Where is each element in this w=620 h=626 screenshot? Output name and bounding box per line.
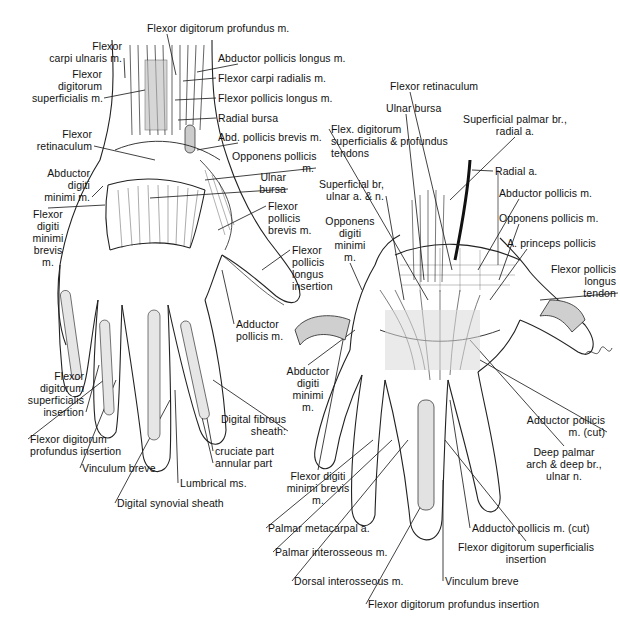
label-fds-insertion-r: Flexor digitorum superficialisinsertion [456, 541, 596, 565]
label-line: Flex. digitorum [331, 123, 431, 135]
label-line: Digital fibrous [220, 413, 286, 425]
label-line: digiti [322, 227, 378, 239]
label-line: Vinculum breve [82, 462, 156, 474]
label-line: digiti [18, 220, 78, 232]
label-fpl-tendon: Flexor pollicislongustendon [534, 263, 616, 299]
label-line: Opponens pollicis [232, 150, 314, 162]
leader-line [183, 78, 216, 81]
label-line: Vinculum breve [445, 575, 519, 587]
label-line: Abductor pollicis longus m. [218, 52, 346, 64]
leader-line [222, 270, 234, 324]
label-line: Flexor [32, 68, 102, 80]
label-line: Superficial palmar br., [460, 113, 570, 125]
label-line: Flexor [22, 40, 122, 52]
label-line: Deep palmar [522, 446, 606, 458]
label-line: Palmar interosseous m. [275, 546, 388, 558]
label-line: m. [322, 251, 378, 263]
leader-line [178, 118, 216, 120]
label-line: brevis [18, 244, 78, 256]
label-fdp-insertion-r: Flexor digitorum profundus insertion [368, 598, 539, 610]
label-line: Flexor pollicis [534, 263, 616, 275]
label-fpb-m: Flexorpollicisbrevis m. [268, 200, 312, 236]
label-line: Abd. pollicis brevis m. [218, 131, 322, 143]
leader-line [175, 390, 178, 483]
leader-line [410, 92, 452, 270]
label-line: radial a. [460, 125, 570, 137]
label-line: Flexor [268, 200, 312, 212]
leader-line [472, 170, 493, 171]
label-flex-digitorum-tendons: Flex. digitorumsuperficialis & profundus… [331, 123, 431, 159]
label-fpl-m: Flexor pollicis longus m. [218, 92, 333, 104]
label-fcr-m: Flexor carpi radialis m. [218, 72, 326, 84]
label-line: digitorum [32, 80, 102, 92]
label-line: superficialis m. [32, 92, 102, 104]
label-line: insertion [456, 553, 596, 565]
label-line: Adductor [236, 318, 283, 330]
label-superficial-br-ulnar: Superficial br,ulnar a. & n. [312, 178, 384, 202]
leader-line [490, 249, 527, 300]
label-opponens-pollicis-r: Opponens pollicis m. [499, 212, 598, 224]
label-line: Palmar metacarpal a. [268, 522, 370, 534]
label-ulnar-bursa-l: Ulnarbursa [250, 171, 286, 195]
leader-line [450, 400, 470, 528]
label-adm-m-r: Abductordigitiminimim. [280, 365, 336, 413]
label-line: m. (cut) [521, 426, 605, 438]
leader-line [92, 186, 103, 197]
label-cruciate-part: cruciate part [215, 445, 274, 457]
label-line: Abductor [20, 167, 90, 179]
label-line: Flexor [20, 370, 84, 382]
label-adductor-pollicis-cut-2: Adductor pollicis m. (cut) [472, 522, 590, 534]
label-line: insertion [20, 406, 84, 418]
leader-line [175, 98, 216, 100]
label-line: sheath: [220, 425, 286, 437]
label-line: Flexor [20, 128, 92, 140]
label-line: ulnar n. [522, 470, 606, 482]
left-hand-drawing [58, 40, 300, 472]
label-line: longus [292, 268, 333, 280]
label-line: minimi [322, 239, 378, 251]
label-line: Flexor digiti [285, 470, 351, 482]
label-palmar-metacarpal-a: Palmar metacarpal a. [268, 522, 370, 534]
label-line: retinaculum [20, 140, 92, 152]
label-line: Radial bursa [218, 112, 278, 124]
label-fdp-m: Flexor digitorum profundus m. [147, 22, 289, 34]
label-line: minimi [18, 232, 78, 244]
label-line: arch & deep br., [522, 458, 606, 470]
label-abductor-pollicis-m: Abductor pollicis m. [499, 187, 592, 199]
label-line: m. [285, 494, 351, 506]
label-deep-palmar-arch: Deep palmararch & deep br.,ulnar n. [522, 446, 606, 482]
label-lumbrical-ms: Lumbrical ms. [180, 477, 247, 489]
label-line: tendons [331, 147, 431, 159]
label-line: Ulnar [250, 171, 286, 183]
label-line: Adductor pollicis [521, 414, 605, 426]
label-opponens-digiti-minimi: Opponensdigitiminimim. [322, 215, 378, 263]
label-fdmb-m-l: Flexordigitiminimibrevism. [18, 208, 78, 268]
label-fds-m: Flexordigitorumsuperficialis m. [32, 68, 102, 104]
label-line: Flexor digitorum [30, 433, 121, 445]
label-digital-synovial-sheath: Digital synovial sheath [117, 497, 224, 509]
label-radial-bursa: Radial bursa [218, 112, 278, 124]
label-flexor-retinaculum-l: Flexorretinaculum [20, 128, 92, 152]
label-annular-part: annular part [215, 457, 272, 469]
label-radial-a: Radial a. [495, 165, 537, 177]
label-line: cruciate part [215, 445, 274, 457]
label-vinculum-breve-r: Vinculum breve [445, 575, 519, 587]
label-line: Flexor digitorum superficialis [456, 541, 596, 553]
label-line: tendon [534, 287, 616, 299]
label-line: annular part [215, 457, 272, 469]
label-line: longus [534, 275, 616, 287]
anatomy-figure: Flexor digitorum profundus m.Flexorcarpi… [0, 0, 620, 626]
leader-line [350, 263, 362, 290]
leader-line [262, 250, 290, 270]
label-line: bursa [250, 183, 286, 195]
label-line: minimi [280, 389, 336, 401]
label-line: Flexor carpi radialis m. [218, 72, 326, 84]
label-line: superficialis & profundus [331, 135, 431, 147]
label-flexor-retinaculum-r: Flexor retinaculum [390, 80, 478, 92]
label-apb-m: Abd. pollicis brevis m. [218, 131, 322, 143]
label-line: superficialis [20, 394, 84, 406]
label-adductor-pollicis-cut-1: Adductor pollicism. (cut) [521, 414, 605, 438]
label-line: Abductor [280, 365, 336, 377]
label-line: Adductor pollicis m. (cut) [472, 522, 590, 534]
label-line: brevis m. [268, 224, 312, 236]
